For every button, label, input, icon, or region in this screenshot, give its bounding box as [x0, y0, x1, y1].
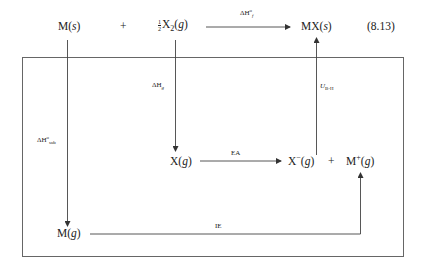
reactant-metal-solid: M(s) — [58, 21, 80, 33]
plus-sign-2: + — [328, 156, 335, 168]
equation-number: (8.13) — [367, 21, 395, 33]
lattice-energy-label: UB-H — [320, 83, 334, 90]
atomization-enthalpy-label: ΔHg — [152, 82, 164, 89]
metal-atom-gas: M(g) — [57, 228, 81, 240]
halogen-atom-gas: X(g) — [170, 156, 192, 168]
sublimation-enthalpy-label: ΔHosub — [37, 137, 56, 144]
formation-enthalpy-label: ΔHof — [240, 10, 253, 17]
ionization-energy-label: IE — [215, 223, 222, 230]
ie-path — [90, 173, 361, 234]
metal-cation-gas: M+(g) — [346, 156, 374, 168]
product-ionic-solid: MX(s) — [301, 21, 332, 33]
electron-affinity-label: EA — [231, 150, 240, 157]
reactant-halogen: 12X2(g) — [158, 19, 188, 32]
halide-anion-gas: X−(g) — [288, 156, 314, 168]
one-half-fraction: 12 — [158, 19, 161, 32]
plus-sign: + — [120, 21, 127, 33]
